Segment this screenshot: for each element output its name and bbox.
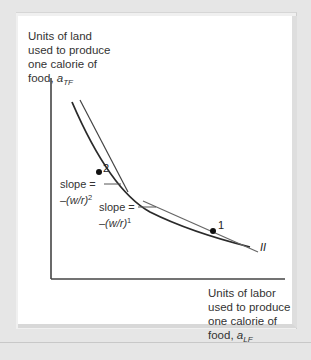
slope-label-1: slope = –(w/r)1 xyxy=(99,201,135,230)
slope-prefix: slope = xyxy=(60,178,96,191)
y-axis-label: Units of land used to produce one calori… xyxy=(28,29,138,90)
y-label-line: used to produce xyxy=(28,43,138,57)
x-label-line: one calorie of xyxy=(208,314,308,328)
tangent-line-1 xyxy=(143,201,258,252)
point-2-marker xyxy=(96,169,102,175)
y-label-prefix: food, xyxy=(28,72,57,84)
x-label-line: used to produce xyxy=(208,300,308,314)
slope-exponent: 2 xyxy=(88,193,92,202)
slope-expr-text: –(w/r) xyxy=(60,194,88,206)
point-2-label: 2 xyxy=(103,162,109,174)
slope-prefix: slope = xyxy=(99,201,135,214)
slope-exponent: 1 xyxy=(127,216,131,225)
y-label-line: food, aTF xyxy=(28,71,138,90)
x-label-sub: LF xyxy=(243,335,252,344)
y-label-line: one calorie of xyxy=(28,57,138,71)
x-axis-label: Units of labor used to produce one calor… xyxy=(208,286,308,347)
slope-expr: –(w/r)1 xyxy=(99,214,135,230)
curve-label: II xyxy=(260,241,266,253)
slope-label-2: slope = –(w/r)2 xyxy=(60,178,96,207)
y-label-line: Units of land xyxy=(28,29,138,43)
slope-expr: –(w/r)2 xyxy=(60,191,96,207)
x-label-prefix: food, xyxy=(208,329,237,341)
x-label-line: food, aLF xyxy=(208,328,308,347)
y-label-sub: TF xyxy=(63,78,73,87)
point-1-label: 1 xyxy=(218,219,224,231)
x-label-line: Units of labor xyxy=(208,286,308,300)
point-1-marker xyxy=(210,228,216,234)
slope-expr-text: –(w/r) xyxy=(99,217,127,229)
